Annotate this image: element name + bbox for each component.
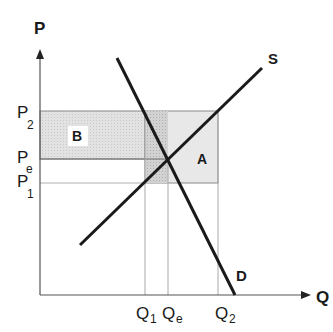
y-axis-label: P — [34, 19, 45, 38]
q2-sub: 2 — [229, 312, 236, 326]
demand-label: D — [236, 267, 247, 284]
area-a-label: A — [197, 151, 207, 167]
p1-sub: 1 — [27, 187, 34, 201]
area-b-region — [40, 111, 145, 159]
x-axis-label: Q — [316, 288, 329, 307]
y-axis-arrow-icon — [36, 49, 44, 59]
qe-sub: e — [176, 312, 183, 326]
supply-demand-diagram: P Q P 2 P e P 1 Q 1 Q e Q 2 S D B A — [0, 0, 333, 332]
q2-label: Q — [215, 304, 228, 323]
supply-label: S — [268, 50, 278, 67]
q1-label: Q — [136, 304, 149, 323]
area-b-label: B — [72, 128, 82, 144]
p2-sub: 2 — [27, 118, 34, 132]
x-axis-arrow-icon — [301, 291, 311, 299]
qe-label: Q — [162, 304, 175, 323]
q1-sub: 1 — [150, 312, 157, 326]
